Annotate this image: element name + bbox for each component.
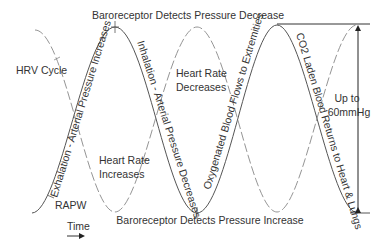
label-rapw: RAPW xyxy=(55,199,87,211)
label-co2: CO2 Laden Blood Returns to Heart & Lungs xyxy=(294,31,365,230)
label-bottom-baroreceptor: Baroreceptor Detects Pressure Increase xyxy=(116,214,303,226)
label-hr-increases-2: Increases xyxy=(99,168,145,180)
label-amplitude-1: Up to xyxy=(334,92,359,104)
label-hrv-cycle: HRV Cycle xyxy=(16,64,67,76)
label-oxygenated: Oxygenated Blood Flows to Extremities xyxy=(200,12,265,191)
label-inhalation: Inhalation - Arterial Pressure Decreases xyxy=(135,39,204,219)
label-hr-decreases-1: Heart Rate xyxy=(176,67,227,79)
label-hr-increases-1: Heart Rate xyxy=(99,154,150,166)
label-time: Time xyxy=(67,220,90,232)
label-hr-decreases-2: Decreases xyxy=(176,81,226,93)
hrv-diagram: Baroreceptor Detects Pressure Decrease B… xyxy=(0,0,392,251)
label-amplitude-2: 60mmHg xyxy=(328,106,371,118)
